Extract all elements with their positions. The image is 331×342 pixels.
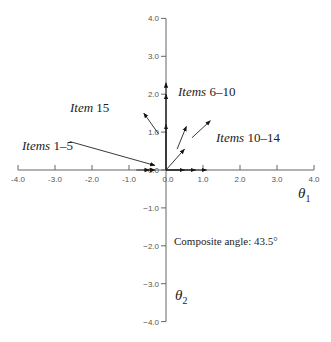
y-tick-label: −4.0 <box>143 318 159 327</box>
label-items-1-5: Items 1–5 <box>21 138 73 153</box>
y-tick-label: 3.0 <box>148 52 160 61</box>
x-tick-label: 3.0 <box>271 175 283 184</box>
callout-arrow <box>70 142 155 166</box>
x-tick-label: 4.0 <box>308 175 320 184</box>
y-axis-title: θ2 <box>175 287 187 306</box>
vector-arrow <box>177 126 186 149</box>
vector-arrow <box>166 149 185 170</box>
x-tick-label: -4.0 <box>11 175 25 184</box>
vector-plot: -4.0-3.0-2.0-1.00.01.02.03.04.04.03.02.0… <box>0 0 331 342</box>
y-tick-label: 4.0 <box>148 14 160 23</box>
x-tick-label: 0.0 <box>162 175 174 184</box>
y-tick-label: 2.0 <box>148 90 160 99</box>
label-item-15: Item 15 <box>69 100 109 115</box>
vector-arrow <box>192 121 211 138</box>
label-items-6-10: Items 6–10 <box>177 84 235 99</box>
x-tick-label: -1.0 <box>122 175 136 184</box>
x-tick-label: 1.0 <box>197 175 209 184</box>
x-axis-title: θ1 <box>298 185 310 204</box>
y-tick-label: −1.0 <box>143 204 159 213</box>
y-tick-label: 0.0 <box>148 166 160 175</box>
label-items-10-14: Items 10–14 <box>215 130 280 145</box>
x-tick-label: -3.0 <box>48 175 62 184</box>
y-tick-label: −2.0 <box>143 242 159 251</box>
x-tick-label: 2.0 <box>234 175 246 184</box>
composite-angle-note: Composite angle: 43.5° <box>174 235 278 247</box>
callout-lines <box>70 142 155 166</box>
x-tick-label: -2.0 <box>85 175 99 184</box>
y-tick-label: −3.0 <box>143 280 159 289</box>
